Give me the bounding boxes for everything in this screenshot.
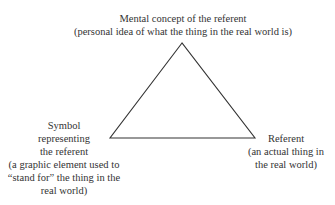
triangle	[110, 43, 255, 138]
referent-label: Referent (an actual thing in the real wo…	[240, 132, 332, 171]
symbol-line-5: “stand for” the thing in the	[0, 171, 128, 184]
symbol-line-2: representing	[0, 132, 128, 145]
symbol-title: Symbol	[0, 119, 128, 132]
symbol-line-6: real world)	[0, 184, 128, 197]
symbol-line-4: (a graphic element used to	[0, 158, 128, 171]
mental-concept-description: (personal idea of what the thing in the …	[0, 25, 335, 38]
mental-concept-title: Mental concept of the referent	[0, 12, 335, 25]
mental-concept-label: Mental concept of the referent (personal…	[0, 12, 335, 38]
symbol-line-3: the referent	[0, 145, 128, 158]
referent-line-2: (an actual thing in	[240, 145, 332, 158]
referent-line-3: the real world)	[240, 158, 332, 171]
symbol-label: Symbol representing the referent (a grap…	[0, 119, 128, 197]
referent-title: Referent	[240, 132, 332, 145]
